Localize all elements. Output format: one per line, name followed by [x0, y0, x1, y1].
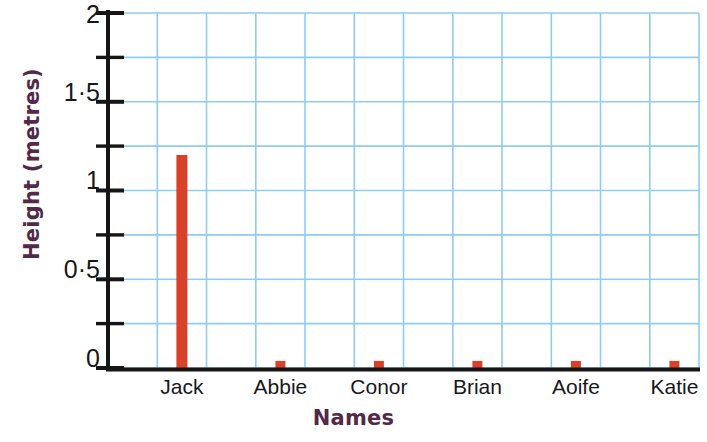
bar-aoife	[571, 361, 581, 368]
bars-group	[176, 155, 679, 368]
x-tick-label-abbie: Abbie	[254, 376, 308, 397]
x-axis-tick-labels: Jack Abbie Conor Brian Aoife Katie	[0, 376, 707, 408]
x-tick-label-jack: Jack	[160, 376, 203, 397]
x-tick-label-brian: Brian	[453, 376, 502, 397]
bar-chart: Height (metres) 2 1·5 1 0·5 0 Jack Abbie…	[0, 0, 707, 442]
bar-abbie	[275, 361, 285, 368]
bar-brian	[472, 361, 482, 368]
x-tick-label-aoife: Aoife	[552, 376, 600, 397]
x-tick-label-katie: Katie	[650, 376, 698, 397]
bar-jack	[176, 155, 187, 368]
bar-katie	[669, 361, 679, 368]
bar-conor	[374, 361, 384, 368]
x-axis-title: Names	[0, 406, 707, 430]
x-tick-label-conor: Conor	[350, 376, 407, 397]
